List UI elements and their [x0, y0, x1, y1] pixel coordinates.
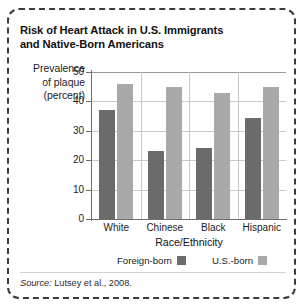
- plot-area: [92, 72, 286, 219]
- legend: Foreign-bornU.S.-born: [92, 255, 292, 266]
- bar: [263, 87, 279, 219]
- bar: [245, 118, 261, 219]
- source-citation: Lutsey et al., 2008.: [52, 278, 132, 288]
- x-axis-title: Race/Ethnicity: [92, 236, 286, 248]
- legend-item: Foreign-born: [117, 255, 186, 266]
- legend-item: U.S.-born: [212, 255, 267, 266]
- bar: [117, 84, 133, 219]
- y-axis-tick: [86, 190, 91, 191]
- bar: [166, 87, 182, 219]
- y-axis-tick-labels: 01020304050: [54, 10, 84, 307]
- legend-item-label: Foreign-born: [117, 255, 172, 266]
- legend-color-swatch: [177, 256, 186, 265]
- gridline-vertical: [238, 72, 239, 219]
- bar: [148, 151, 164, 219]
- bar: [196, 148, 212, 219]
- figure-card: Risk of Heart Attack in U.S. Immigrants …: [7, 8, 296, 299]
- gridline-vertical: [141, 72, 142, 219]
- legend-item-label: U.S.-born: [212, 255, 253, 266]
- gridline-vertical: [189, 72, 190, 219]
- y-axis-tick-label: 30: [58, 125, 84, 136]
- source-label: Source:: [20, 278, 52, 288]
- x-axis-tick-label: Chinese: [141, 222, 190, 233]
- y-axis-tick: [86, 131, 91, 132]
- source-divider: [20, 272, 286, 273]
- y-axis-tick-label: 50: [58, 66, 84, 77]
- y-axis-tick-label: 10: [58, 184, 84, 195]
- bar: [99, 110, 115, 219]
- y-axis-tick-label: 0: [58, 213, 84, 224]
- x-axis-tick-label: Hispanic: [238, 222, 287, 233]
- legend-color-swatch: [258, 256, 267, 265]
- y-axis-tick: [86, 160, 91, 161]
- y-axis-tick-label: 20: [58, 154, 84, 165]
- x-axis-tick-label: White: [92, 222, 141, 233]
- x-axis-tick-label: Black: [189, 222, 238, 233]
- y-axis-tick: [86, 101, 91, 102]
- y-axis-tick: [86, 219, 91, 220]
- x-axis-line: [91, 219, 287, 220]
- y-axis-tick-label: 40: [58, 95, 84, 106]
- y-axis-tick: [86, 72, 91, 73]
- bar: [214, 93, 230, 219]
- source-note: Source: Lutsey et al., 2008.: [20, 278, 132, 288]
